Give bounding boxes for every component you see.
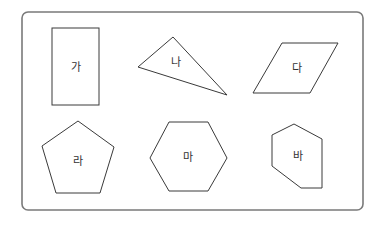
shapes-diagram: 가 나 다 라 마 바 (0, 0, 385, 226)
shape-label-ma: 마 (183, 151, 193, 164)
shape-label-na: 나 (171, 56, 181, 69)
shape-label-ba: 바 (293, 150, 303, 163)
shape-label-ra: 라 (73, 155, 83, 168)
shape-label-ga: 가 (71, 61, 81, 74)
shape-label-da: 다 (292, 62, 302, 75)
shape-ga: 가 (52, 28, 99, 105)
